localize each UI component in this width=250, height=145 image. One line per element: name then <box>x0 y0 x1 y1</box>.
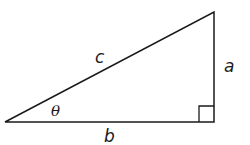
right-angle-marker <box>199 106 214 122</box>
triangle-outline <box>5 12 214 122</box>
side-a-label: a <box>224 56 234 76</box>
side-b-label: b <box>104 126 115 145</box>
hypotenuse-label: c <box>95 47 105 67</box>
right-triangle-diagram: c a b θ <box>0 0 250 145</box>
angle-theta-label: θ <box>51 102 60 120</box>
